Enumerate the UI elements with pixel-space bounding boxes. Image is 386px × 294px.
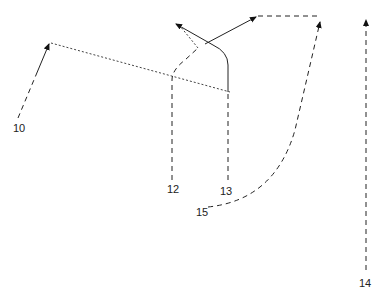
route-10-ext bbox=[51, 43, 230, 92]
label-12: 12 bbox=[167, 184, 179, 195]
route-15 bbox=[208, 22, 320, 207]
route-10 bbox=[18, 75, 36, 118]
route-10-arrow bbox=[36, 44, 49, 75]
route-12 bbox=[172, 48, 198, 180]
diagram-canvas bbox=[0, 0, 386, 294]
label-15: 15 bbox=[196, 207, 208, 218]
route-13-solid bbox=[176, 24, 228, 92]
label-10: 10 bbox=[13, 123, 25, 134]
route-13b bbox=[205, 17, 256, 44]
play-diagram: 10 12 13 15 14 bbox=[0, 0, 386, 294]
label-13: 13 bbox=[220, 186, 232, 197]
label-14: 14 bbox=[359, 278, 371, 289]
route-12-dotted bbox=[180, 26, 198, 48]
